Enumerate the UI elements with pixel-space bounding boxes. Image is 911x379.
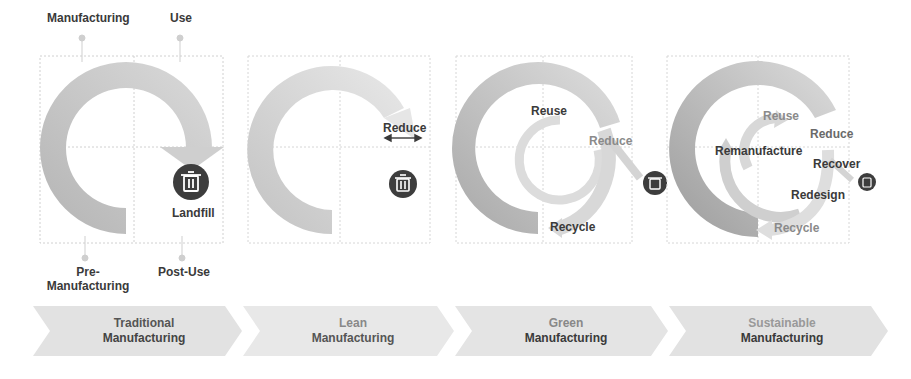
label-redesign: Redesign: [791, 188, 845, 202]
label-reduce: Reduce: [589, 134, 632, 148]
stage-traditional-diagram: [40, 35, 224, 261]
label-recycle: Recycle: [550, 220, 595, 234]
label-pre-manufacturing: Pre- Manufacturing: [45, 265, 131, 293]
chevron-line1: Sustainable: [694, 316, 870, 331]
remanufacture-arrow: [725, 150, 800, 217]
label-pre-line2: Manufacturing: [45, 279, 131, 293]
stage-green-diagram: [452, 56, 667, 243]
reuse-arrow: [744, 118, 776, 168]
label-recycle: Recycle: [774, 221, 819, 235]
label-reduce: Reduce: [383, 121, 426, 135]
chevron-traditional-label: Traditional Manufacturing: [60, 316, 228, 346]
label-reuse: Reuse: [763, 109, 799, 123]
label-remanufacture: Remanufacture: [715, 144, 802, 158]
label-use: Use: [170, 11, 192, 25]
trash-icon: [858, 173, 876, 191]
chevron-line1: Lean: [268, 316, 438, 331]
chevron-line2: Manufacturing: [694, 331, 870, 346]
trash-icon: [643, 171, 667, 195]
label-reuse: Reuse: [531, 104, 567, 118]
label-pre-line1: Pre-: [45, 265, 131, 279]
label-post-use: Post-Use: [158, 265, 210, 279]
lifecycle-arc: [247, 66, 404, 234]
chevron-green-label: Green Manufacturing: [480, 316, 652, 346]
label-manufacturing: Manufacturing: [47, 11, 130, 25]
label-recover: Recover: [813, 157, 860, 171]
trash-icon: [173, 164, 209, 200]
inner-loop: [519, 120, 599, 200]
chevron-line2: Manufacturing: [60, 331, 228, 346]
label-landfill: Landfill: [172, 206, 215, 220]
chevron-line2: Manufacturing: [480, 331, 652, 346]
chevron-line1: Traditional: [60, 316, 228, 331]
label-reduce: Reduce: [810, 127, 853, 141]
chevron-line2: Manufacturing: [268, 331, 438, 346]
double-arrow-icon: [385, 135, 421, 141]
chevron-lean-label: Lean Manufacturing: [268, 316, 438, 346]
stage-lean-diagram: [247, 56, 430, 243]
chevron-sustainable-label: Sustainable Manufacturing: [694, 316, 870, 346]
chevron-line1: Green: [480, 316, 652, 331]
